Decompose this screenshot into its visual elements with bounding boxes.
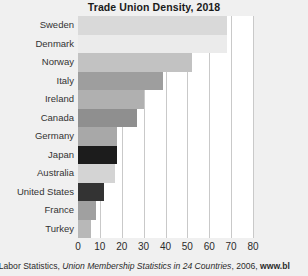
bar-row: [78, 164, 253, 183]
x-tick-30: 30: [138, 241, 149, 252]
category-label-japan: Japan: [0, 146, 74, 165]
source-caption: f Labor Statistics, Union Membership Sta…: [0, 261, 308, 271]
caption-url: www.bl: [260, 261, 290, 271]
bar-row: [78, 201, 253, 220]
bar-japan: [78, 146, 117, 165]
x-tick-60: 60: [204, 241, 215, 252]
x-tick-70: 70: [226, 241, 237, 252]
bar-row: [78, 183, 253, 202]
bar-sweden: [78, 16, 227, 35]
bar-france: [78, 201, 96, 220]
bar-row: [78, 35, 253, 54]
bar-row: [78, 72, 253, 91]
chart-screenshot: Trade Union Density, 2018 SwedenDenmarkN…: [0, 0, 308, 276]
x-tick-80: 80: [247, 241, 258, 252]
category-label-canada: Canada: [0, 109, 74, 128]
bar-row: [78, 109, 253, 128]
category-label-norway: Norway: [0, 53, 74, 72]
x-tick-0: 0: [75, 241, 81, 252]
bar-australia: [78, 164, 115, 183]
bars-container: [78, 16, 253, 238]
bar-row: [78, 16, 253, 35]
category-label-united-states: United States: [0, 183, 74, 202]
bar-turkey: [78, 220, 91, 239]
gridline-80: [253, 16, 254, 238]
caption-text-part-1: f Labor Statistics,: [0, 261, 62, 271]
category-label-turkey: Turkey: [0, 220, 74, 239]
category-label-australia: Australia: [0, 164, 74, 183]
bar-ireland: [78, 90, 144, 109]
bar-germany: [78, 127, 117, 146]
category-label-germany: Germany: [0, 127, 74, 146]
plot-area: [78, 16, 253, 238]
category-label-sweden: Sweden: [0, 16, 74, 35]
x-tick-50: 50: [182, 241, 193, 252]
bar-row: [78, 220, 253, 239]
caption-publication-title: Union Membership Statistics in 24 Countr…: [62, 261, 231, 271]
bar-denmark: [78, 35, 227, 54]
bar-row: [78, 127, 253, 146]
x-tick-10: 10: [94, 241, 105, 252]
bar-italy: [78, 72, 163, 91]
x-axis-tick-labels: 01020304050607080: [78, 239, 253, 255]
bar-row: [78, 53, 253, 72]
bar-row: [78, 90, 253, 109]
x-tick-20: 20: [116, 241, 127, 252]
caption-text-part-2: , 2006,: [231, 261, 260, 271]
category-label-ireland: Ireland: [0, 90, 74, 109]
bar-canada: [78, 109, 137, 128]
bar-row: [78, 146, 253, 165]
x-tick-40: 40: [160, 241, 171, 252]
category-label-denmark: Denmark: [0, 35, 74, 54]
bar-norway: [78, 53, 192, 72]
chart-title: Trade Union Density, 2018: [0, 1, 308, 13]
category-label-italy: Italy: [0, 72, 74, 91]
category-label-france: France: [0, 201, 74, 220]
category-labels: SwedenDenmarkNorwayItalyIrelandCanadaGer…: [0, 16, 74, 238]
bar-united-states: [78, 183, 104, 202]
